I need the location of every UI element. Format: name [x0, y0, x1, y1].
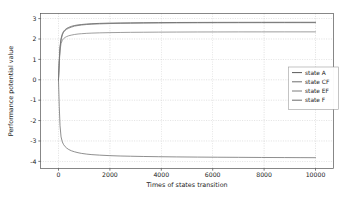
legend-label: state A [305, 70, 326, 76]
y-axis-title: Performance potential value [7, 46, 15, 137]
y-tick-label: -3 [30, 137, 36, 144]
y-tick-label: 1 [33, 56, 37, 63]
x-tick-label: 8000 [256, 171, 272, 178]
chart-figure: 0200040006000800010000 -4-3-2-10123 Time… [0, 0, 350, 198]
y-tick-label: -4 [30, 158, 36, 165]
legend-label: state EF [305, 88, 330, 94]
line-chart: 0200040006000800010000 -4-3-2-10123 Time… [0, 0, 350, 198]
y-tick-labels: -4-3-2-10123 [30, 15, 36, 165]
chart-legend[interactable]: state Astate CFstate EFstate F [289, 67, 339, 109]
x-tick-label: 4000 [153, 171, 169, 178]
x-tick-label: 0 [57, 171, 61, 178]
x-axis-title: Times of states transition [145, 181, 227, 189]
x-tick-label: 6000 [205, 171, 221, 178]
x-tick-labels: 0200040006000800010000 [57, 171, 326, 178]
x-tick-label: 10000 [306, 171, 326, 178]
y-tick-label: 2 [33, 35, 37, 42]
y-tick-label: -2 [30, 117, 36, 124]
y-tick-label: 3 [33, 15, 37, 22]
legend-label: state F [305, 97, 326, 103]
y-tick-label: -1 [30, 96, 36, 103]
y-tick-label: 0 [33, 76, 37, 83]
x-tick-label: 2000 [102, 171, 118, 178]
legend-label: state CF [305, 79, 330, 85]
